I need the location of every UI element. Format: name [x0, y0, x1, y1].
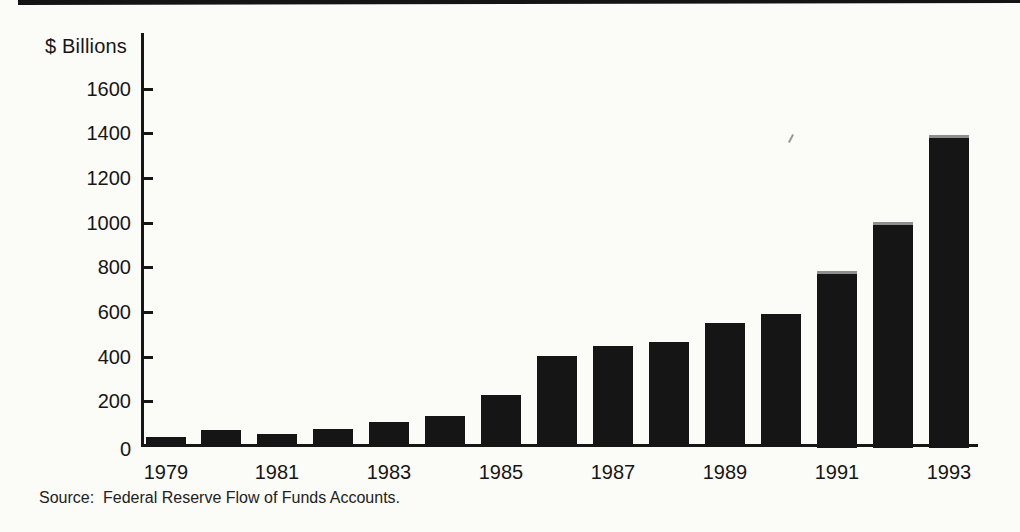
x-axis-label-1991: 1991	[797, 461, 877, 483]
bar-1991	[817, 271, 857, 448]
x-axis-label-1993: 1993	[909, 461, 989, 483]
y-axis-line	[141, 33, 144, 447]
bar-1983	[369, 422, 409, 445]
bar-1984	[425, 416, 465, 445]
bar-1990	[761, 314, 801, 445]
bar-1982	[313, 429, 353, 445]
y-axis-tick-200	[144, 400, 153, 403]
y-axis-tick-1400	[144, 132, 153, 135]
bar-1980	[201, 430, 241, 445]
x-axis-label-1989: 1989	[685, 461, 765, 483]
bar-chart: 0200400600800100012001400160019791981198…	[0, 0, 1020, 532]
y-axis-tick-400	[144, 356, 153, 359]
y-axis-label-0: 0	[67, 438, 131, 460]
y-axis-label-200: 200	[67, 390, 131, 412]
y-axis-label-1400: 1400	[67, 122, 131, 144]
bar-1986	[537, 356, 577, 445]
x-axis-label-1983: 1983	[349, 461, 429, 483]
x-axis-label-1981: 1981	[237, 461, 317, 483]
bar-1979	[146, 437, 186, 445]
scanned-figure-page: $ Billions 02004006008001000120014001600…	[0, 0, 1020, 532]
x-axis-label-1987: 1987	[573, 461, 653, 483]
y-axis-label-1000: 1000	[67, 212, 131, 234]
y-axis-tick-800	[144, 266, 153, 269]
y-axis-tick-1000	[144, 222, 153, 225]
bar-1989	[705, 323, 745, 445]
x-axis-label-1985: 1985	[461, 461, 541, 483]
y-axis-label-1600: 1600	[67, 78, 131, 100]
y-axis-label-800: 800	[67, 256, 131, 278]
bar-1992	[873, 222, 913, 448]
source-note: Source: Federal Reserve Flow of Funds Ac…	[39, 489, 400, 507]
y-axis-tick-1200	[144, 177, 153, 180]
y-axis-label-1200: 1200	[67, 167, 131, 189]
bar-1981	[257, 434, 297, 445]
bar-1993	[929, 135, 969, 448]
y-axis-tick-1600	[144, 88, 153, 91]
x-axis-label-1979: 1979	[126, 461, 206, 483]
bar-1988	[649, 342, 689, 445]
y-axis-label-400: 400	[67, 346, 131, 368]
y-axis-tick-600	[144, 311, 153, 314]
bar-1987	[593, 346, 633, 445]
y-axis-label-600: 600	[67, 301, 131, 323]
bar-1985	[481, 395, 521, 445]
